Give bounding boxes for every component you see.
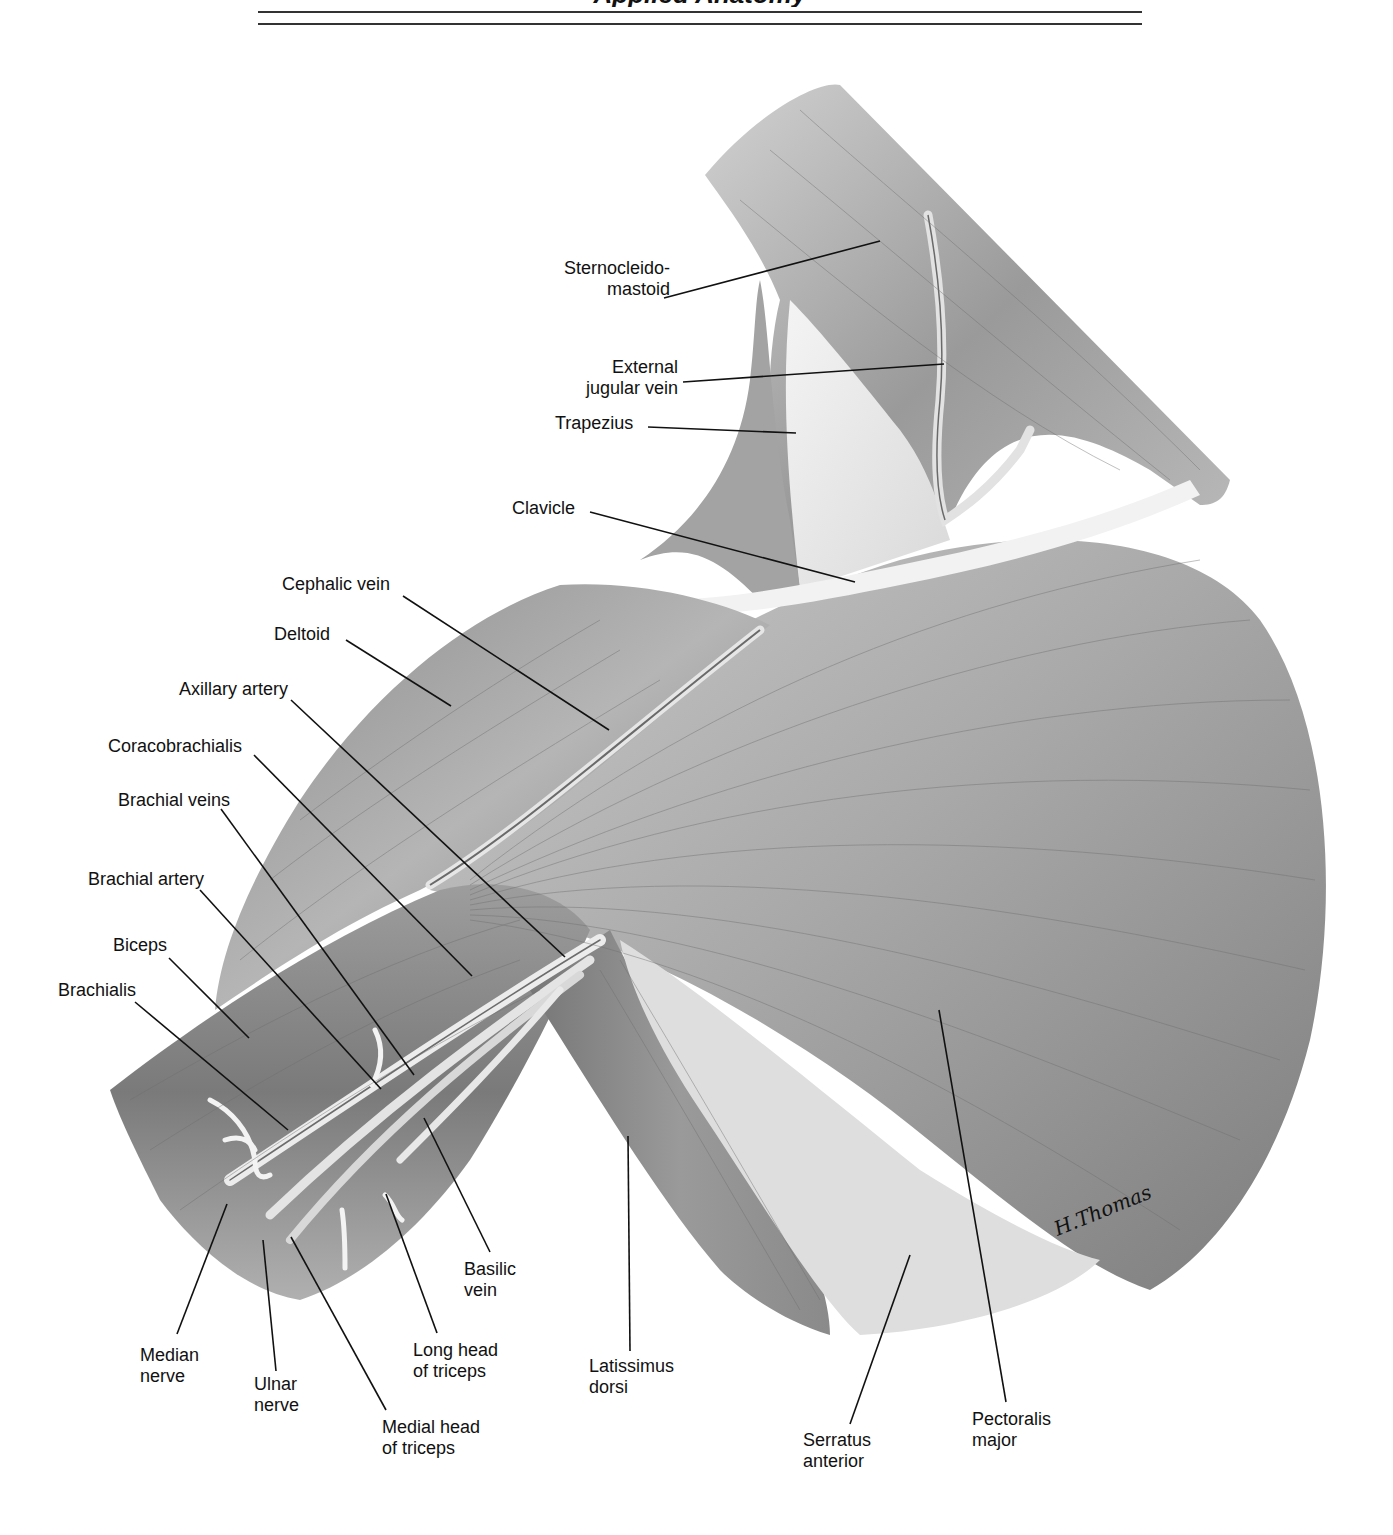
label-line: Brachial artery [88,869,223,890]
label-external-jugular-vein: Externaljugular vein [540,357,678,399]
label-line: of triceps [382,1438,502,1459]
label-line: Axillary artery [179,679,309,700]
label-line: Ulnar [254,1374,314,1395]
label-line: Brachialis [58,980,153,1001]
label-line: Median [140,1345,220,1366]
label-medial-head-of-triceps: Medial headof triceps [382,1417,502,1459]
label-serratus-anterior: Serratusanterior [803,1430,893,1472]
label-line: dorsi [589,1377,689,1398]
leader-latissimus-dorsi [628,1136,630,1351]
label-line: anterior [803,1451,893,1472]
label-median-nerve: Mediannerve [140,1345,220,1387]
label-line: Cephalic vein [282,574,407,595]
label-trapezius: Trapezius [555,413,645,434]
label-coracobrachialis: Coracobrachialis [108,736,258,757]
label-line: Medial head [382,1417,502,1438]
label-line: vein [464,1280,534,1301]
label-line: nerve [140,1366,220,1387]
label-line: Coracobrachialis [108,736,258,757]
label-line: Long head [413,1340,523,1361]
label-line: of triceps [413,1361,523,1382]
label-latissimus-dorsi: Latissimusdorsi [589,1356,689,1398]
label-axillary-artery: Axillary artery [179,679,309,700]
label-line: mastoid [530,279,670,300]
anatomical-illustration: H.Thomas [0,0,1393,1535]
label-line: Biceps [113,935,183,956]
label-line: Trapezius [555,413,645,434]
label-line: jugular vein [540,378,678,399]
label-line: Latissimus [589,1356,689,1377]
label-brachial-artery: Brachial artery [88,869,223,890]
label-basilic-vein: Basilicvein [464,1259,534,1301]
label-biceps: Biceps [113,935,183,956]
label-line: External [540,357,678,378]
label-brachialis: Brachialis [58,980,153,1001]
label-line: Brachial veins [118,790,248,811]
label-brachial-veins: Brachial veins [118,790,248,811]
label-line: Basilic [464,1259,534,1280]
label-line: Serratus [803,1430,893,1451]
label-deltoid: Deltoid [274,624,344,645]
label-line: Clavicle [512,498,592,519]
label-line: nerve [254,1395,314,1416]
label-clavicle: Clavicle [512,498,592,519]
label-cephalic-vein: Cephalic vein [282,574,407,595]
label-sternocleidomastoid: Sternocleido-mastoid [530,258,670,300]
label-line: Pectoralis [972,1409,1072,1430]
label-line: Sternocleido- [530,258,670,279]
label-line: major [972,1430,1072,1451]
label-line: Deltoid [274,624,344,645]
label-ulnar-nerve: Ulnarnerve [254,1374,314,1416]
label-long-head-of-triceps: Long headof triceps [413,1340,523,1382]
label-pectoralis-major: Pectoralismajor [972,1409,1072,1451]
